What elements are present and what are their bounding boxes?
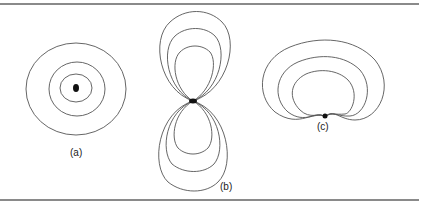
panel-b-center-dot	[189, 99, 197, 104]
panel-a-label: (a)	[70, 147, 82, 158]
panel-c-center-dot	[323, 114, 328, 119]
diagram-canvas	[0, 0, 422, 208]
panel-c-label: (c)	[317, 121, 329, 132]
panel-a-center-dot	[73, 84, 79, 92]
panel-c-curves	[262, 40, 384, 120]
panel-b-label: (b)	[220, 181, 232, 192]
